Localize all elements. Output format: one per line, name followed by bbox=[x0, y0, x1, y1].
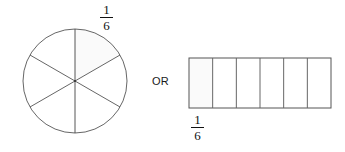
circle-center-point bbox=[74, 80, 76, 82]
circle-fraction-model bbox=[23, 29, 127, 133]
fraction-figure: 1 6 OR 1 6 bbox=[0, 0, 345, 152]
bar-fraction-numerator: 1 bbox=[192, 113, 203, 127]
circle-fraction-label: 1 6 bbox=[100, 3, 113, 32]
bar-shaded-cell bbox=[189, 58, 213, 108]
bar-fraction-model bbox=[189, 58, 331, 108]
bar-fraction-denominator: 6 bbox=[192, 128, 203, 142]
circle-shaded-sector bbox=[75, 29, 120, 81]
circle-fraction-numerator: 1 bbox=[101, 3, 112, 17]
circle-fraction-denominator: 6 bbox=[101, 18, 112, 32]
bar-fraction-label: 1 6 bbox=[191, 113, 204, 142]
or-connector-label: OR bbox=[152, 75, 169, 87]
figure-canvas bbox=[0, 0, 345, 152]
